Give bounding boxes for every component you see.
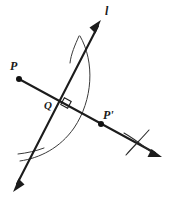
arc-cross-stroke-a-icon <box>124 133 150 151</box>
arc-cross-mark-right <box>124 130 150 155</box>
line-l <box>17 26 98 184</box>
label-point-q: Q <box>44 99 52 111</box>
point-p-dot <box>16 76 22 82</box>
geometry-canvas: P Q P' l <box>0 0 172 200</box>
line-l-arrow-bottom-icon <box>13 179 25 193</box>
label-line-l: l <box>105 4 109 18</box>
arc-tick-top-icon <box>70 36 79 63</box>
line-l-group <box>13 20 101 192</box>
geometry-diagram: P Q P' l <box>0 0 172 200</box>
line-l-arrow-top-icon <box>90 20 102 34</box>
segment-p-pprime-group <box>19 79 162 157</box>
label-point-p-prime: P' <box>103 108 114 122</box>
label-point-p: P <box>10 59 18 73</box>
arc-tick-bottom-left-icon <box>18 148 44 154</box>
arc-cross-stroke-b-icon <box>126 130 149 155</box>
